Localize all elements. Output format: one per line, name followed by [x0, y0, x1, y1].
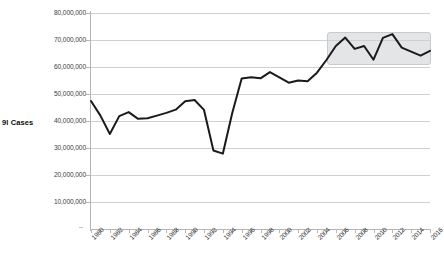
- y-axis-tick: [86, 121, 91, 122]
- series-line: [91, 34, 430, 154]
- y-axis-tick: [86, 13, 91, 14]
- y-axis-tick: [86, 40, 91, 41]
- x-axis-tick: [242, 229, 243, 233]
- y-axis-tick: [86, 202, 91, 203]
- x-axis-tick: [374, 229, 375, 233]
- y-axis-tick: [86, 67, 91, 68]
- y-axis-tick: [86, 175, 91, 176]
- x-axis-tick: [148, 229, 149, 233]
- y-axis-tick: [86, 148, 91, 149]
- x-axis-tick: [261, 229, 262, 233]
- x-axis-tick: [355, 229, 356, 233]
- y-axis-tick: [86, 94, 91, 95]
- x-axis-tick: [129, 229, 130, 233]
